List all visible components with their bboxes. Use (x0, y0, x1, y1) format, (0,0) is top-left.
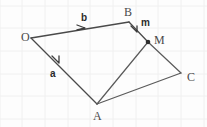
background-grid (0, 0, 207, 127)
point-label-C: C (187, 70, 195, 84)
vector-label-a: a (50, 68, 56, 79)
diagram-nodes (146, 40, 151, 45)
point-label-O: O (21, 30, 30, 44)
canvas-background (0, 0, 207, 127)
point-label-M: M (154, 33, 165, 47)
point-label-B: B (124, 5, 132, 19)
vector-label-b: b (81, 12, 87, 23)
node-dot-M (146, 40, 151, 45)
vector-label-m: m (141, 17, 150, 28)
diagram-canvas: O B M C A b a m (0, 0, 207, 127)
vector-diagram-figure: O B M C A b a m (0, 0, 207, 127)
point-label-A: A (93, 109, 102, 123)
